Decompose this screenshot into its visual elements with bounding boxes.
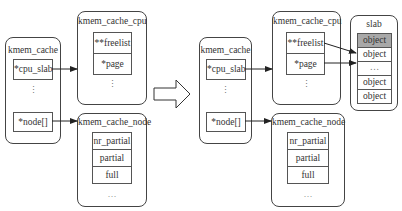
kmem-cache-title: kmem_cache <box>200 45 251 55</box>
freelist-field: **freelist <box>93 32 132 54</box>
partial-field: partial <box>287 149 329 167</box>
nr-partial-field: nr_partial <box>287 132 329 150</box>
slab-object: object <box>357 47 392 62</box>
slab-box: slab object object … object object <box>350 15 398 111</box>
page-field: *page <box>93 53 132 75</box>
kmem-cache-title: kmem_cache <box>6 45 60 55</box>
ellipsis: ⋮ <box>78 82 146 86</box>
cpu-slab-field: *cpu_slab <box>206 59 246 80</box>
kmem-cache-node-title: kmem_cache_node <box>78 117 146 127</box>
ellipsis: … <box>78 192 146 196</box>
ellipsis: ⋮ <box>6 88 60 92</box>
node-field: *node[] <box>206 112 246 132</box>
ellipsis: … <box>272 192 344 196</box>
full-field: full <box>92 166 132 184</box>
kmem-cache-node-box-before: kmem_cache_node nr_partial partial full … <box>77 113 147 207</box>
full-field: full <box>287 166 329 184</box>
page-field: *page <box>286 53 325 75</box>
nr-partial-field: nr_partial <box>92 132 132 150</box>
kmem-cache-cpu-title: kmem_cache_cpu <box>273 16 340 26</box>
partial-field: partial <box>92 149 132 167</box>
kmem-cache-box-before: kmem_cache *cpu_slab ⋮ *node[] <box>5 37 61 144</box>
slab-object: object <box>357 75 392 90</box>
freelist-field: **freelist <box>286 32 325 54</box>
kmem-cache-cpu-title: kmem_cache_cpu <box>78 16 146 26</box>
cpu-slab-field: *cpu_slab <box>13 59 53 80</box>
kmem-cache-cpu-box-after: kmem_cache_cpu **freelist *page ⋮ <box>272 11 341 105</box>
slab-object: object <box>357 89 392 104</box>
transition-arrow-icon <box>154 80 190 108</box>
slab-title: slab <box>351 19 397 29</box>
kmem-cache-node-box-after: kmem_cache_node nr_partial partial full … <box>271 113 345 207</box>
ellipsis: ⋮ <box>200 88 251 92</box>
kmem-cache-box-after: kmem_cache *cpu_slab ⋮ *node[] <box>199 37 252 144</box>
kmem-cache-cpu-box-before: kmem_cache_cpu **freelist *page ⋮ <box>77 11 147 105</box>
slab-object-allocated: object <box>357 33 392 48</box>
kmem-cache-node-title: kmem_cache_node <box>272 117 344 127</box>
node-field: *node[] <box>13 112 53 132</box>
ellipsis: ⋮ <box>273 82 340 86</box>
slab-object-ellipsis: … <box>357 61 392 76</box>
